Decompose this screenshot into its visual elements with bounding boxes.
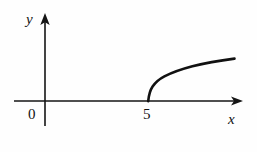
graph-canvas [0, 0, 257, 152]
square-root-curve [148, 59, 234, 102]
y-axis-label: y [26, 12, 33, 27]
x-tick-label-5: 5 [143, 107, 151, 122]
y-axis-group [40, 13, 49, 126]
x-axis-label: x [228, 112, 235, 127]
x-axis-group [14, 97, 243, 106]
graph-figure: y x 0 5 [0, 0, 257, 152]
origin-label: 0 [28, 107, 36, 122]
